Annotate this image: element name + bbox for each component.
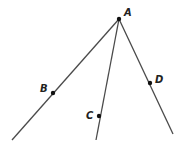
point-c: [97, 114, 101, 118]
ray-ad: [119, 19, 173, 134]
label-d: D: [155, 74, 163, 85]
label-b: B: [40, 83, 48, 94]
point-b: [51, 91, 55, 95]
ray-ab: [12, 19, 119, 140]
label-a: A: [123, 7, 132, 18]
ray-ac: [96, 19, 119, 140]
point-d: [148, 81, 152, 85]
geometry-diagram: A B C D: [0, 0, 182, 149]
label-c: C: [86, 110, 94, 121]
point-a: [117, 17, 121, 21]
